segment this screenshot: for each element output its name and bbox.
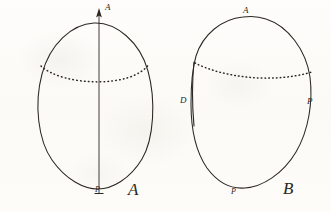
- figure-drawing: [0, 0, 331, 212]
- label-apex-a: A: [105, 2, 111, 12]
- caption-a: A: [128, 180, 138, 200]
- label-apex-b: A: [243, 5, 249, 15]
- label-pole-a: P: [95, 185, 100, 194]
- egg-outline-a: [38, 23, 153, 189]
- terminator-edge-b: [193, 62, 195, 126]
- caption-b: B: [283, 179, 293, 199]
- figure-page: A P A A D P P B: [0, 0, 331, 212]
- equator-dotted-b: [195, 63, 312, 78]
- panel-a-drawing: [38, 8, 153, 194]
- label-pole-b: P: [231, 187, 236, 196]
- label-right-pole-b: P: [307, 96, 313, 106]
- egg-outline-b: [191, 16, 311, 188]
- label-d-b: D: [180, 95, 187, 105]
- panel-b-drawing: [191, 16, 312, 188]
- equator-dotted-a: [41, 64, 149, 82]
